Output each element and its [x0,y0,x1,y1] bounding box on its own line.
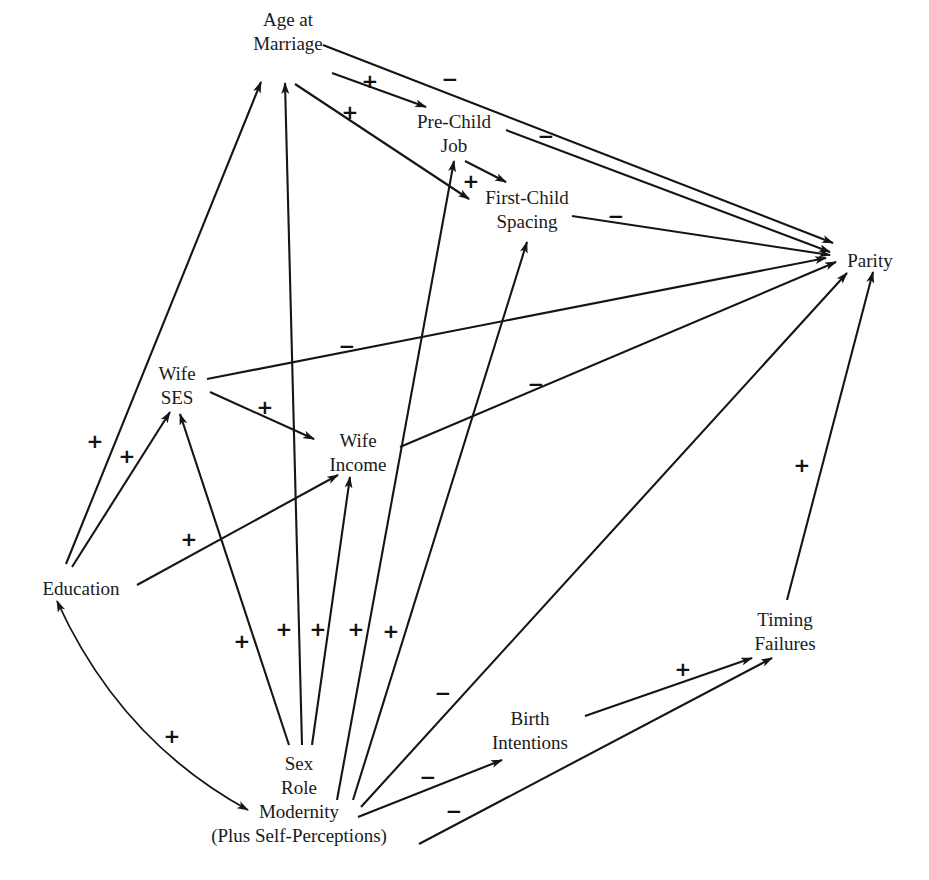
plus-sign: + [119,444,136,468]
plus-sign: + [164,724,181,748]
edge-sex-role-modernity-to-age-marriage [285,83,302,745]
plus-sign: + [257,395,274,419]
minus-sign: − [420,765,437,789]
node-timing-failures: TimingFailures [754,609,815,654]
node-label: (Plus Self-Perceptions) [211,825,387,847]
node-label: Intentions [492,732,568,753]
node-parity: Parity [847,250,893,271]
plus-sign: + [362,69,379,93]
node-label: Timing [757,609,813,630]
node-label: SES [161,387,194,408]
plus-sign: + [383,619,400,643]
minus-sign: − [528,372,545,396]
node-label: Marriage [253,33,323,54]
plus-sign: + [675,657,692,681]
edge-sex-role-modernity-to-first-child-spacing [353,242,527,800]
plus-sign: + [463,169,480,193]
node-pre-child-job: Pre-ChildJob [417,111,491,156]
node-label: Wife [158,363,195,384]
edge-sex-role-modernity-to-wife-ses [180,414,289,745]
node-label: Income [330,454,387,475]
node-wife-ses: WifeSES [158,363,195,408]
path-diagram: −++−+−−+−++++++++−−−+++ Age atMarriagePr… [0,0,929,880]
node-label: Pre-Child [417,111,491,132]
bidirectional-edge-education-sex-role-modernity [57,601,248,810]
edge-wife-income-to-parity [400,262,836,447]
minus-sign: − [608,204,625,228]
node-label: Failures [754,633,815,654]
node-sex-role-modernity: SexRoleModernity(Plus Self-Perceptions) [211,753,387,847]
plus-sign: + [181,527,198,551]
minus-sign: − [538,124,555,148]
node-label: Modernity [259,801,340,822]
minus-sign: − [435,681,452,705]
plus-sign: + [348,617,365,641]
plus-sign: + [234,629,251,653]
plus-sign: + [310,617,327,641]
edge-sex-role-modernity-to-wife-income [312,477,350,745]
edge-birth-intentions-to-timing-failures [585,658,752,716]
node-first-child-spacing: First-ChildSpacing [485,187,569,232]
node-birth-intentions: BirthIntentions [492,708,568,753]
node-education: Education [42,578,120,599]
edge-education-to-age-marriage [66,82,261,564]
node-label: Sex [285,753,314,774]
node-label: Age at [263,9,314,30]
node-label: Spacing [496,211,558,232]
edge-education-to-wife-income [137,475,338,585]
node-label: Job [441,135,467,156]
node-wife-income: WifeIncome [330,430,387,475]
node-label: Education [42,578,120,599]
node-label: Birth [510,708,550,729]
minus-sign: − [442,67,459,91]
minus-sign: − [446,799,463,823]
node-label: Parity [847,250,893,271]
signs-layer: −++−+−−+−++++++++−−−+++ [87,67,811,823]
plus-sign: + [276,617,293,641]
minus-sign: − [339,334,356,358]
plus-sign: + [342,100,359,124]
plus-sign: + [87,429,104,453]
node-age-marriage: Age atMarriage [253,9,323,54]
edge-age-marriage-to-parity [323,45,833,243]
node-label: Role [281,777,317,798]
node-label: First-Child [485,187,569,208]
plus-sign: + [794,453,811,477]
edge-timing-failures-to-parity [787,272,873,600]
node-label: Wife [339,430,376,451]
